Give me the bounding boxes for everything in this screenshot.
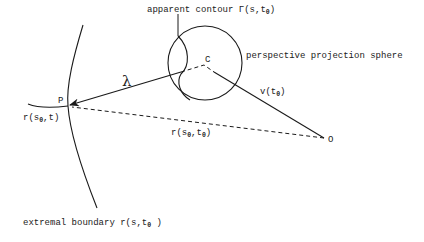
center-c-label: C — [205, 55, 211, 65]
sphere-label: perspective projection sphere — [246, 51, 403, 61]
point-p-label: P — [58, 96, 63, 106]
origin-o-label: O — [328, 135, 333, 145]
diagram-canvas: apparent contour Γ(s,t0) perspective pro… — [0, 0, 424, 242]
extremal-boundary-curve — [68, 25, 97, 208]
r-s0-t0-label: r(s0,t0) — [171, 128, 211, 139]
extremal-boundary-label: extremal boundary r(s,t0 ) — [23, 218, 162, 229]
velocity-line — [214, 72, 324, 138]
r-s0-t-label: r(s0,t) — [23, 113, 59, 124]
velocity-label: v(t0) — [260, 87, 286, 98]
lambda-label: λ — [122, 72, 132, 90]
apparent-contour-label: apparent contour Γ(s,t0) — [147, 5, 275, 16]
